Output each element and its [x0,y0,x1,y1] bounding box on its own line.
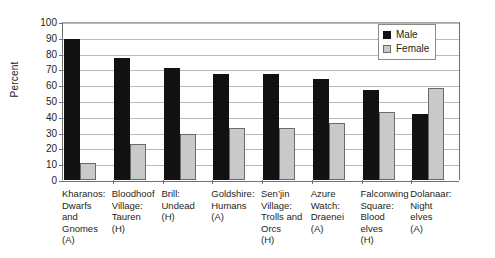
bar-female [180,134,196,180]
legend: Male Female [378,24,436,60]
x-axis-category-label: Dolanaar: Night elves (A) [410,188,464,234]
bar-female [428,88,444,180]
legend-item-female: Female [383,42,429,56]
x-axis-tick-mark [312,180,313,184]
bar-male [164,68,180,180]
x-axis-labels: Kharanos: Dwarfs and Gnomes (A)Bloodhoof… [62,188,462,258]
x-axis-tick-mark [212,180,213,184]
bar-group [262,23,312,180]
bar-female [130,144,146,180]
bar-female [329,123,345,180]
bar-male [114,58,130,180]
bar-male [64,39,80,180]
y-axis-title: Percent [9,50,20,110]
x-axis-category-label: Goldshire: Humans (A) [211,188,265,223]
x-axis-tick-mark [411,180,412,184]
x-axis-category-label: Kharanos: Dwarfs and Gnomes (A) [62,188,116,246]
x-axis-category-label: Falconwing Square: Blood elves (H) [361,188,415,246]
legend-swatch-male-icon [383,31,391,39]
bar-male [363,90,379,180]
bar-group [63,23,113,180]
x-axis-category-label: Bloodhoof Village: Tauren (H) [112,188,166,234]
bar-group [113,23,163,180]
x-axis-tick-mark [362,180,363,184]
bar-male [313,79,329,180]
x-axis-tick-mark [113,180,114,184]
bar-male [263,74,279,180]
bar-male [412,114,428,180]
bar-group [212,23,262,180]
x-axis-category-label: Sen’jin Village: Trolls and Orcs (H) [261,188,315,246]
bar-female [379,112,395,180]
x-axis-category-label: Brill: Undead (H) [162,188,216,223]
bar-female [279,128,295,180]
bar-chart: Percent 1009080706050403020100 Kharanos:… [0,0,495,258]
x-axis-tick-mark [262,180,263,184]
x-axis-category-label: Azure Watch: Draenei (A) [311,188,365,234]
bar-group [312,23,362,180]
gridline: 0 [63,181,459,182]
y-axis-tick-mark [59,181,63,182]
bar-group [163,23,213,180]
bar-female [80,163,96,180]
x-axis-tick-mark [163,180,164,184]
legend-swatch-female-icon [383,45,391,53]
legend-item-male: Male [383,28,429,42]
bar-male [213,74,229,180]
bar-female [229,128,245,180]
legend-label-female: Female [396,44,429,54]
legend-label-male: Male [396,30,418,40]
